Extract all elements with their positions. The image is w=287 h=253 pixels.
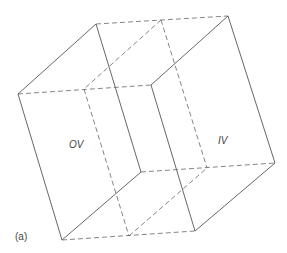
right-face-label: IV (218, 135, 227, 146)
figure-caption: (a) (15, 231, 27, 242)
left-face-label: OV (69, 139, 83, 150)
cube-diagram (0, 0, 287, 253)
